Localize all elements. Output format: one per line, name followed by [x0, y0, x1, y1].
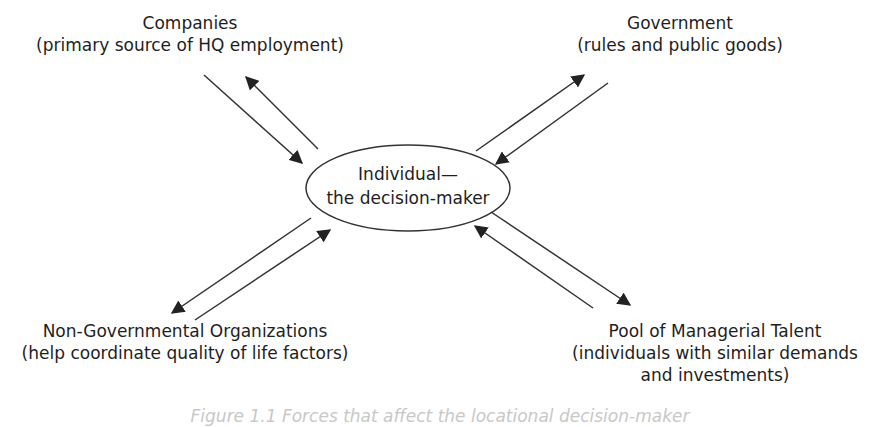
government-subtitle: (rules and public goods) [560, 34, 800, 56]
arrow-individual-to-ngo [172, 218, 311, 313]
node-companies: Companies (primary source of HQ employme… [0, 12, 380, 56]
figure-caption: Figure 1.1 Forces that affect the locati… [140, 405, 740, 427]
node-ngo: Non-Governmental Organizations (help coo… [0, 320, 370, 364]
government-title: Government [560, 12, 800, 34]
node-pool: Pool of Managerial Talent (individuals w… [555, 320, 875, 386]
arrow-individual-to-pool [491, 212, 630, 305]
ngo-title: Non-Governmental Organizations [0, 320, 370, 342]
pool-subtitle: (individuals with similar demands [555, 342, 875, 364]
individual-line-2: the decision-maker [298, 186, 518, 210]
arrow-ngo-to-individual [195, 230, 330, 320]
arrow-pool-to-individual [475, 226, 593, 308]
companies-title: Companies [0, 12, 380, 34]
arrow-government-to-individual [496, 83, 608, 164]
individual-line-1: Individual— [298, 162, 518, 186]
node-government: Government (rules and public goods) [560, 12, 800, 56]
companies-subtitle: (primary source of HQ employment) [0, 34, 380, 56]
pool-title: Pool of Managerial Talent [555, 320, 875, 342]
ngo-subtitle: (help coordinate quality of life factors… [0, 342, 370, 364]
node-individual: Individual— the decision-maker [298, 162, 518, 210]
arrow-individual-to-companies [246, 77, 318, 149]
pool-subtitle-2: and investments) [555, 364, 875, 386]
